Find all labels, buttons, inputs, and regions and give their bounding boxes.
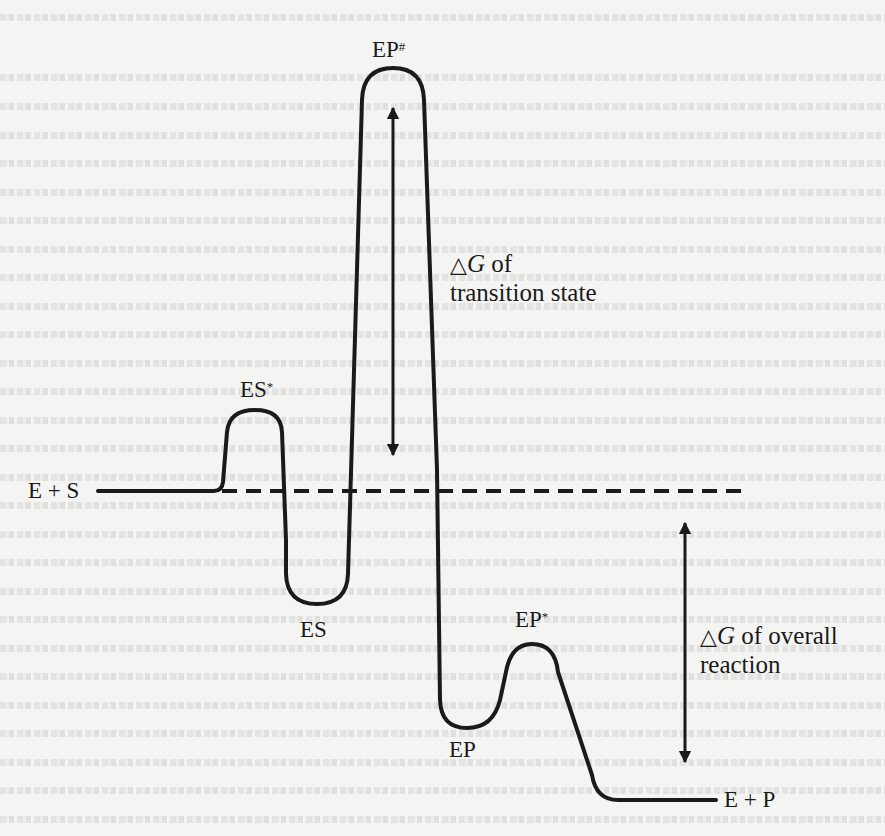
transition-state-dg-line2: transition state	[450, 279, 597, 307]
main-transition-base: EP	[372, 37, 399, 62]
ep-transition-sup: *	[542, 609, 549, 624]
reactants-label: E + S	[28, 478, 79, 504]
products-label: E + P	[724, 787, 775, 813]
gibbs-g: G	[717, 622, 735, 649]
energy-diagram	[0, 0, 885, 836]
products-text: E + P	[724, 787, 775, 812]
es-transition-sup: *	[267, 379, 274, 394]
overall-reaction-dg-line1: △G of overall	[700, 622, 838, 651]
es-transition-label: ES*	[240, 377, 273, 403]
transition-state-dg-rest: of	[485, 250, 512, 277]
delta-symbol: △	[450, 252, 467, 277]
transition-state-dg-line1: △G of	[450, 250, 597, 279]
es-complex-label: ES	[300, 617, 327, 643]
overall-reaction-dg-rest: of overall	[735, 622, 838, 649]
ep-transition-label: EP*	[515, 607, 548, 633]
overall-reaction-dg-line2: reaction	[700, 651, 838, 679]
overall-reaction-dg-label: △G of overall reaction	[700, 622, 838, 679]
ep-transition-base: EP	[515, 607, 542, 632]
ep-complex-label: EP	[449, 737, 476, 763]
reactants-text: E + S	[28, 478, 79, 503]
main-transition-label: EP#	[372, 37, 405, 63]
gibbs-g: G	[467, 250, 485, 277]
free-energy-curve	[98, 68, 716, 800]
main-transition-sup: #	[399, 39, 406, 54]
transition-state-dg-label: △G of transition state	[450, 250, 597, 307]
es-complex-text: ES	[300, 617, 327, 642]
ep-complex-text: EP	[449, 737, 476, 762]
es-transition-base: ES	[240, 377, 267, 402]
delta-symbol: △	[700, 624, 717, 649]
